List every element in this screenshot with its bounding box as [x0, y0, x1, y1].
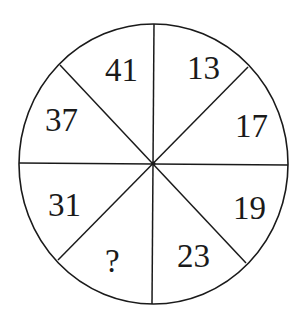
- center-dot: [152, 162, 156, 166]
- segment-bottom-left: ?: [105, 243, 120, 279]
- segment-left-lower: 31: [48, 187, 81, 223]
- segment-top-left: 41: [105, 52, 138, 88]
- segment-left-upper: 37: [45, 102, 78, 138]
- segment-top-right: 13: [187, 50, 220, 86]
- segment-right-upper: 17: [235, 108, 268, 144]
- number-wheel-diagram: 41 13 17 19 23 ? 31 37: [0, 0, 303, 330]
- segment-right-lower: 19: [233, 190, 266, 226]
- segment-bottom-right: 23: [177, 238, 210, 274]
